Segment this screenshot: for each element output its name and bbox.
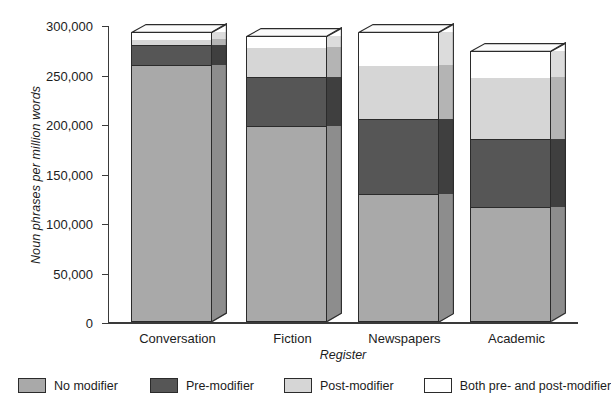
- legend-item-pre-modifier[interactable]: Pre-modifier: [150, 378, 254, 393]
- x-axis-line: [108, 322, 578, 323]
- y-axis-tick: 200,000: [102, 125, 108, 126]
- legend-label: Post-modifier: [320, 379, 394, 393]
- bar-segment-both-pre-and-post-modifier: [247, 37, 326, 48]
- bar-front-face: [246, 36, 327, 322]
- bar-side-face: [212, 32, 227, 322]
- bar-segment-post-modifier: [471, 78, 550, 140]
- legend-swatch-icon: [150, 378, 178, 393]
- y-axis-tick: 150,000: [102, 175, 108, 176]
- bar-segment-no-modifier: [247, 127, 326, 322]
- legend-label: Pre-modifier: [186, 379, 254, 393]
- bar-top-face: [470, 43, 566, 52]
- bar-side-segment: [327, 36, 342, 47]
- chart-legend: No modifierPre-modifierPost-modifierBoth…: [18, 378, 578, 393]
- y-axis-tick: 0: [102, 323, 108, 324]
- bar-segment-pre-modifier: [471, 140, 550, 208]
- bar-side-segment: [551, 51, 566, 77]
- y-axis-tick-label: 150,000: [46, 167, 93, 182]
- bar-side-segment: [439, 65, 454, 119]
- bar-segment-pre-modifier: [359, 120, 438, 196]
- bar-side-face: [439, 32, 454, 323]
- bar-top-face: [358, 24, 454, 33]
- bar-side-segment: [439, 194, 454, 322]
- bar-segment-no-modifier: [471, 208, 550, 322]
- bar-front-face: [358, 32, 439, 323]
- bar-segment-no-modifier: [359, 195, 438, 322]
- bar-side-face: [551, 51, 566, 322]
- bar-segment-post-modifier: [247, 48, 326, 78]
- bar-segment-pre-modifier: [132, 46, 211, 66]
- bar-side-segment: [327, 77, 342, 126]
- x-axis-label-fiction: Fiction: [273, 331, 311, 346]
- legend-item-post-modifier[interactable]: Post-modifier: [284, 378, 394, 393]
- x-axis-label-conversation: Conversation: [139, 331, 216, 346]
- y-axis-tick-label: 250,000: [46, 68, 93, 83]
- bar-side-segment: [212, 45, 227, 65]
- bar-front-face: [470, 51, 551, 322]
- bar-segment-both-pre-and-post-modifier: [132, 33, 211, 40]
- bar-side-face: [327, 36, 342, 322]
- y-axis-tick: 300,000: [102, 26, 108, 27]
- x-axis-label-academic: Academic: [488, 331, 545, 346]
- bar-side-segment: [327, 126, 342, 322]
- legend-swatch-icon: [18, 378, 46, 393]
- x-axis-title: Register: [108, 348, 578, 362]
- bar-front-face: [131, 32, 212, 322]
- y-axis-tick-label: 50,000: [53, 266, 93, 281]
- plot-area: 050,000100,000150,000200,000250,000300,0…: [108, 20, 578, 330]
- y-axis-tick: 250,000: [102, 76, 108, 77]
- y-axis-tick: 100,000: [102, 224, 108, 225]
- legend-swatch-icon: [284, 378, 312, 393]
- legend-item-no-modifier[interactable]: No modifier: [18, 378, 118, 393]
- bar-side-segment: [439, 119, 454, 195]
- bar-side-segment: [212, 32, 227, 39]
- bar-side-segment: [327, 47, 342, 77]
- bar-conversation: [131, 32, 212, 322]
- x-axis-label-newspapers: Newspapers: [368, 331, 440, 346]
- y-axis-tick: 50,000: [102, 274, 108, 275]
- y-axis-title: Noun phrases per million words: [29, 35, 43, 315]
- bar-side-segment: [551, 77, 566, 139]
- bar-segment-no-modifier: [132, 66, 211, 322]
- y-axis-tick-label: 100,000: [46, 217, 93, 232]
- bar-side-segment: [551, 207, 566, 322]
- legend-label: Both pre- and post-modifier: [460, 379, 611, 393]
- bar-side-segment: [439, 32, 454, 65]
- bar-segment-pre-modifier: [247, 78, 326, 127]
- bar-segment-both-pre-and-post-modifier: [471, 52, 550, 78]
- bar-side-segment: [551, 139, 566, 207]
- y-axis-tick-label: 200,000: [46, 118, 93, 133]
- bar-segment-both-pre-and-post-modifier: [359, 33, 438, 66]
- bar-academic: [470, 51, 551, 322]
- bar-newspapers: [358, 32, 439, 323]
- bar-top-face: [246, 28, 342, 37]
- legend-label: No modifier: [54, 379, 118, 393]
- legend-item-both-pre-and-post-modifier[interactable]: Both pre- and post-modifier: [424, 378, 611, 393]
- bar-fiction: [246, 36, 327, 322]
- y-axis-tick-label: 0: [86, 316, 93, 331]
- bar-top-face: [131, 24, 227, 33]
- bar-side-segment: [212, 65, 227, 322]
- legend-swatch-icon: [424, 378, 452, 393]
- y-axis-line: [108, 26, 109, 323]
- y-axis-tick-label: 300,000: [46, 19, 93, 34]
- bar-segment-post-modifier: [359, 66, 438, 120]
